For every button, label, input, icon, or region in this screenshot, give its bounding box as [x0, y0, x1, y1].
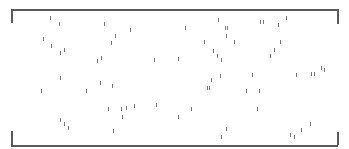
tick-mark	[178, 57, 179, 61]
tick-mark	[310, 122, 311, 126]
tick-mark	[60, 118, 61, 122]
tick-mark	[227, 26, 228, 30]
tick-mark	[260, 20, 261, 24]
tick-mark	[86, 89, 87, 93]
tick-mark	[59, 22, 60, 26]
frame-bottom-right-bracket	[337, 132, 339, 145]
tick-mark	[108, 107, 109, 111]
tick-mark	[213, 49, 214, 53]
tick-mark	[311, 72, 312, 76]
tick-mark	[270, 54, 271, 58]
tick-mark	[220, 74, 221, 78]
tick-mark	[64, 122, 65, 126]
tick-mark	[221, 58, 222, 62]
tick-mark	[121, 107, 122, 111]
tick-mark	[218, 18, 219, 22]
tick-mark	[246, 89, 247, 93]
tick-mark	[126, 106, 127, 110]
tick-mark	[43, 37, 44, 41]
tick-mark	[301, 128, 302, 132]
tick-mark	[60, 51, 61, 55]
tick-mark	[41, 89, 42, 93]
tick-mark	[259, 89, 260, 93]
tick-mark	[111, 41, 112, 45]
tick-mark	[104, 22, 105, 26]
frame-bottom-line	[11, 145, 338, 147]
tick-mark	[115, 34, 116, 38]
tick-mark	[324, 68, 325, 72]
frame-top-line	[11, 9, 338, 11]
tick-mark	[204, 40, 205, 44]
tick-mark	[280, 40, 281, 44]
tick-mark	[257, 107, 258, 111]
tick-mark	[191, 107, 192, 111]
tick-mark	[50, 16, 51, 20]
frame-top-right-bracket	[337, 9, 339, 24]
tick-mark	[207, 86, 208, 90]
tick-mark	[154, 58, 155, 62]
tick-mark	[234, 40, 235, 44]
tick-mark	[113, 129, 114, 133]
frame-top-left-bracket	[11, 9, 13, 23]
tick-mark	[314, 72, 315, 76]
tick-mark	[274, 48, 275, 52]
tick-mark	[134, 104, 135, 108]
tick-mark	[64, 48, 65, 52]
tick-mark	[286, 16, 287, 20]
tick-mark	[290, 133, 291, 137]
tick-mark	[263, 20, 264, 24]
tick-mark	[321, 66, 322, 70]
tick-mark	[221, 135, 222, 139]
tick-mark	[226, 34, 227, 38]
tick-mark	[185, 26, 186, 30]
tick-mark	[100, 81, 101, 85]
frame-bottom-left-bracket	[11, 131, 13, 145]
tick-mark	[130, 28, 131, 32]
tick-mark	[178, 115, 179, 119]
tick-mark	[226, 127, 227, 131]
bracket-frame	[0, 0, 349, 149]
tick-mark	[68, 126, 69, 130]
tick-mark	[156, 103, 157, 107]
tick-mark	[225, 26, 226, 30]
tick-mark	[60, 76, 61, 80]
tick-mark	[278, 23, 279, 27]
tick-mark	[217, 54, 218, 58]
tick-mark	[97, 59, 98, 63]
tick-mark	[296, 73, 297, 77]
tick-mark	[51, 44, 52, 48]
tick-mark	[252, 73, 253, 77]
tick-mark	[122, 115, 123, 119]
tick-mark	[294, 135, 295, 139]
tick-mark	[101, 56, 102, 60]
tick-mark	[209, 86, 210, 90]
tick-mark	[112, 84, 113, 88]
tick-mark	[211, 78, 212, 82]
